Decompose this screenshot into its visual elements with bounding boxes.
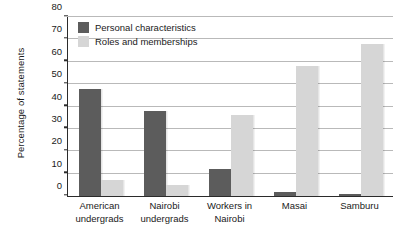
bar [79, 89, 101, 196]
x-axis-label-line: Samburu [327, 200, 392, 213]
bar-group [198, 17, 263, 196]
legend-swatch-icon [78, 36, 89, 47]
legend-label: Roles and memberships [95, 36, 197, 47]
bar-group [263, 17, 328, 196]
x-axis-label: Nairobiundergrads [132, 200, 197, 225]
legend-label: Personal characteristics [95, 22, 196, 33]
x-axis-label-line: American [67, 200, 132, 213]
x-axis-label-line: undergrads [67, 213, 132, 226]
chart-legend: Personal characteristicsRoles and member… [78, 22, 197, 47]
x-axis-label-line: undergrads [132, 213, 197, 226]
x-axis-label: Americanundergrads [67, 200, 132, 225]
legend-entry: Personal characteristics [78, 22, 197, 33]
y-tick-label: 60 [51, 45, 62, 56]
x-axis-label-line: Nairobi [197, 213, 262, 226]
bar [209, 169, 231, 196]
legend-swatch-icon [78, 22, 89, 33]
y-tick-label: 40 [51, 90, 62, 101]
bar [361, 44, 383, 196]
bar-group [328, 17, 393, 196]
x-axis-label-line: Workers in [197, 200, 262, 213]
y-tick-label: 80 [51, 1, 62, 12]
bar [339, 194, 361, 196]
bar [274, 192, 296, 196]
x-axis-label-line: Nairobi [132, 200, 197, 213]
y-tick-label: 0 [57, 180, 62, 191]
y-tick-label: 70 [51, 23, 62, 34]
x-axis-label: Workers inNairobi [197, 200, 262, 225]
x-axis-labels: AmericanundergradsNairobiundergradsWorke… [67, 200, 392, 240]
bar [101, 180, 123, 196]
bar [231, 115, 253, 196]
y-tick-label: 20 [51, 135, 62, 146]
bar-chart: Percentage of statements 010203040506070… [0, 0, 415, 242]
bar [166, 185, 188, 196]
y-tick-label: 10 [51, 157, 62, 168]
x-axis-label: Samburu [327, 200, 392, 213]
x-axis-label: Masai [262, 200, 327, 213]
bar [144, 111, 166, 196]
legend-entry: Roles and memberships [78, 36, 197, 47]
y-tick-label: 30 [51, 112, 62, 123]
x-axis-label-line: Masai [262, 200, 327, 213]
y-axis-title: Percentage of statements [14, 8, 28, 198]
bar [296, 66, 318, 196]
y-tick-label: 50 [51, 68, 62, 79]
